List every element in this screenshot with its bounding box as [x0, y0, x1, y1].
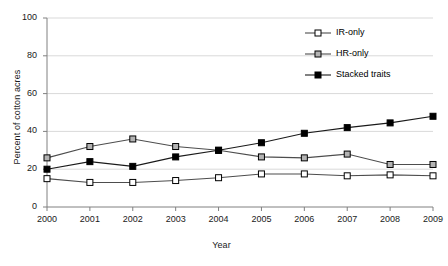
legend-label: IR-only	[336, 27, 365, 37]
x-tick-label: 2005	[241, 214, 281, 224]
data-point-marker	[173, 144, 179, 150]
data-point-marker	[344, 125, 350, 131]
data-point-marker	[216, 175, 222, 181]
data-point-marker	[216, 147, 222, 153]
y-tick-label: 100	[11, 12, 37, 22]
data-point-marker	[301, 171, 307, 177]
data-point-marker	[301, 155, 307, 161]
data-point-marker	[130, 163, 136, 169]
data-point-marker	[87, 179, 93, 185]
x-tick-label: 2008	[370, 214, 410, 224]
legend-marker	[315, 72, 321, 78]
x-tick-label: 2004	[199, 214, 239, 224]
y-tick-label: 40	[11, 125, 37, 135]
x-tick-label: 2009	[413, 214, 448, 224]
data-point-marker	[387, 161, 393, 167]
y-tick-label: 20	[11, 163, 37, 173]
data-point-marker	[44, 166, 50, 172]
data-point-marker	[430, 161, 436, 167]
legend-label: Stacked traits	[336, 69, 391, 79]
data-point-marker	[301, 130, 307, 136]
series-line	[47, 139, 433, 165]
y-tick-label: 60	[11, 88, 37, 98]
data-point-marker	[87, 159, 93, 165]
data-point-marker	[130, 136, 136, 142]
legend-marker	[315, 51, 321, 57]
data-point-marker	[387, 120, 393, 126]
data-point-marker	[344, 173, 350, 179]
data-point-marker	[430, 113, 436, 119]
data-point-marker	[258, 154, 264, 160]
x-tick-label: 2001	[70, 214, 110, 224]
legend-label: HR-only	[336, 48, 369, 58]
data-point-marker	[258, 140, 264, 146]
data-point-marker	[87, 144, 93, 150]
data-point-marker	[173, 178, 179, 184]
data-point-marker	[387, 172, 393, 178]
x-tick-label: 2007	[327, 214, 367, 224]
y-tick-label: 80	[11, 50, 37, 60]
data-point-marker	[44, 155, 50, 161]
data-point-marker	[344, 151, 350, 157]
x-axis-title: Year	[0, 240, 443, 250]
data-point-marker	[258, 171, 264, 177]
data-point-marker	[44, 176, 50, 182]
data-point-marker	[130, 179, 136, 185]
series-line	[47, 174, 433, 183]
x-tick-label: 2006	[284, 214, 324, 224]
x-tick-label: 2003	[156, 214, 196, 224]
legend-marker	[315, 30, 321, 36]
data-point-marker	[173, 154, 179, 160]
data-point-marker	[430, 173, 436, 179]
x-tick-label: 2000	[27, 214, 67, 224]
y-tick-label: 0	[11, 201, 37, 211]
x-tick-label: 2002	[113, 214, 153, 224]
